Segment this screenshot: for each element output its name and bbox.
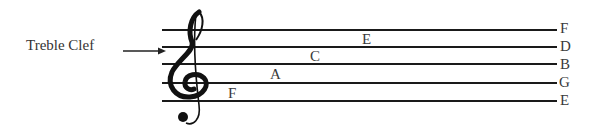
line-note-d: D <box>560 39 571 54</box>
line-note-f: F <box>560 21 568 36</box>
space-note-f: F <box>228 86 236 101</box>
line-note-g: G <box>559 75 570 90</box>
space-note-a: A <box>270 67 281 82</box>
staff-diagram <box>0 0 595 133</box>
line-note-b: B <box>560 57 570 72</box>
arrow-head-icon <box>158 48 166 55</box>
space-note-e: E <box>362 32 371 47</box>
treble-clef-icon <box>170 12 206 124</box>
line-note-e: E <box>560 93 569 108</box>
space-note-c: C <box>310 49 320 64</box>
staff-lines <box>162 30 557 101</box>
